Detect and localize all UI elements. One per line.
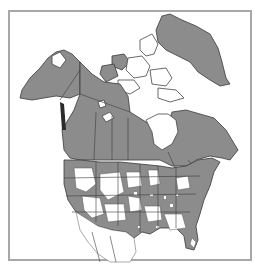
alaska <box>20 50 80 100</box>
north-america-range-map <box>0 0 258 270</box>
